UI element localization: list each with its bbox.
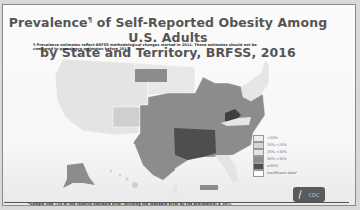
hhs-eagle-icon — [297, 190, 307, 199]
legend-item: 20%-<25% — [253, 142, 297, 148]
legend-item: ≥35% — [253, 163, 297, 169]
slide: Prevalence¶ of Self-Reported Obesity Amo… — [2, 4, 356, 206]
territory-guam — [173, 185, 177, 193]
legend-swatch — [253, 170, 264, 177]
legend-swatch — [253, 156, 264, 163]
state-alaska — [63, 163, 95, 188]
legend-swatch — [253, 149, 264, 156]
legend-item: <20% — [253, 135, 297, 141]
region-northeast — [241, 60, 269, 101]
map-legend: <20% 20%-<25% 25%-<30% 30%-<35% ≥35% Ins… — [253, 135, 297, 177]
divider — [4, 202, 349, 203]
legend-item: 25%-<30% — [253, 149, 297, 155]
state-colorado — [113, 107, 140, 127]
legend-item: 30%-<35% — [253, 156, 297, 162]
legend-swatch — [253, 142, 264, 149]
state-hawaii — [110, 170, 138, 188]
state-north-dakota — [135, 69, 167, 82]
legend-swatch — [253, 163, 264, 170]
legend-item: Insufficient data* — [253, 170, 297, 176]
legend-swatch — [253, 135, 264, 142]
territory-puerto-rico — [200, 185, 218, 190]
state-florida — [215, 155, 239, 183]
cdc-logo: CDC — [293, 187, 325, 202]
us-obesity-map — [3, 5, 357, 207]
